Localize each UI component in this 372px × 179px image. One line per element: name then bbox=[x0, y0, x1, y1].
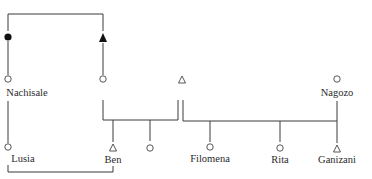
open-circle-icon bbox=[5, 76, 11, 82]
open-triangle-icon bbox=[179, 76, 186, 83]
label-nagozo: Nagozo bbox=[321, 87, 354, 98]
lusia-ben-marriage-bracket bbox=[8, 165, 113, 172]
filled-circle-icon bbox=[4, 33, 11, 40]
open-triangle-icon bbox=[334, 145, 341, 152]
open-circle-icon bbox=[5, 144, 11, 150]
label-nachisale: Nachisale bbox=[6, 87, 48, 98]
open-triangle-icon bbox=[110, 144, 117, 151]
label-lusia: Lusia bbox=[11, 153, 35, 164]
open-circle-icon bbox=[334, 76, 340, 82]
parents-marriage-bracket bbox=[8, 14, 103, 31]
kinship-diagram-svg: Nachisale Nagozo Lusia Ben Filomena bbox=[0, 0, 372, 179]
sibling-bracket-right bbox=[183, 100, 337, 121]
label-rita: Rita bbox=[271, 154, 289, 165]
label-ganizani: Ganizani bbox=[318, 154, 356, 165]
open-circle-icon bbox=[100, 76, 106, 82]
open-circle-icon bbox=[277, 145, 283, 151]
sibling-bracket-left bbox=[103, 100, 178, 120]
open-circle-icon bbox=[147, 145, 153, 151]
filled-triangle-icon bbox=[99, 33, 107, 42]
kinship-diagram: Nachisale Nagozo Lusia Ben Filomena bbox=[0, 0, 372, 179]
open-circle-icon bbox=[207, 144, 213, 150]
label-ben: Ben bbox=[105, 154, 123, 165]
label-filomena: Filomena bbox=[190, 153, 230, 164]
